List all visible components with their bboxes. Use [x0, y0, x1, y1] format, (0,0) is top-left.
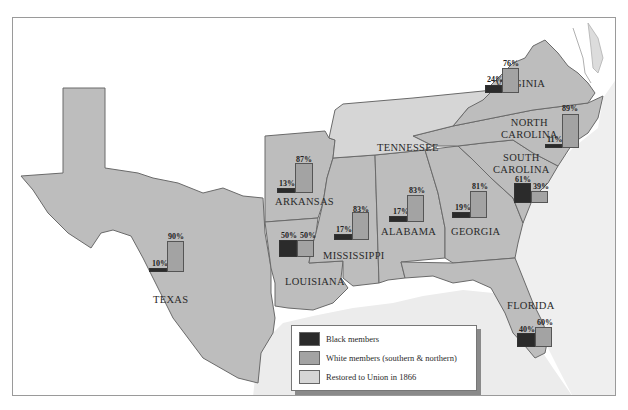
texas-white-bar [167, 241, 184, 272]
label-nc-line1: NORTH [501, 117, 558, 129]
legend-item-white-members: White members (southern & northern) [299, 350, 457, 366]
arkansas-black-pct: 13% [279, 179, 295, 188]
georgia-white-pct: 81% [472, 182, 488, 191]
georgia-black-pct: 19% [455, 203, 471, 212]
label-texas: TEXAS [153, 294, 188, 306]
sc-white-bar [531, 191, 548, 203]
legend-item-restored: Restored to Union in 1866 [299, 369, 416, 385]
nc-white-bar [562, 114, 579, 148]
arkansas-black-bar [277, 188, 295, 193]
alabama-white-bar [407, 195, 424, 222]
virginia-black-bar [485, 85, 502, 93]
restored-swatch [299, 370, 320, 384]
label-south-carolina: SOUTH CAROLINA [493, 152, 550, 176]
legend-item-black-members: Black members [299, 331, 379, 347]
florida-black-bar [517, 333, 535, 347]
georgia-black-bar [452, 212, 470, 218]
white-members-swatch [299, 351, 320, 365]
nc-black-bar [545, 144, 562, 148]
state-texas [21, 88, 275, 383]
black-members-swatch [299, 332, 320, 346]
mississippi-white-bar [352, 212, 369, 240]
label-sc-line1: SOUTH [493, 152, 550, 164]
label-georgia: GEORGIA [451, 226, 500, 238]
alabama-black-bar [389, 216, 407, 222]
map-legend: Black members White members (southern & … [291, 325, 477, 391]
label-tennessee: TENNESSEE [377, 142, 439, 154]
delmarva-peninsula [588, 23, 603, 73]
mississippi-black-pct: 17% [336, 225, 352, 234]
texas-black-pct: 10% [152, 259, 168, 268]
virginia-white-bar [502, 68, 519, 93]
mississippi-black-bar [334, 234, 352, 240]
louisiana-white-pct: 50% [300, 231, 316, 240]
sc-black-bar [514, 183, 531, 203]
label-louisiana: LOUISIANA [285, 276, 345, 288]
nc-white-pct: 89% [562, 104, 578, 113]
georgia-white-bar [470, 191, 487, 218]
florida-white-bar [535, 327, 552, 347]
label-alabama: ALABAMA [381, 226, 436, 238]
label-florida: FLORIDA [507, 300, 555, 312]
louisiana-black-bar [279, 240, 297, 257]
nc-black-pct: 11% [547, 135, 563, 144]
texas-white-pct: 90% [168, 232, 184, 241]
florida-white-pct: 60% [537, 318, 553, 327]
legend-label: Restored to Union in 1866 [326, 372, 416, 382]
alabama-white-pct: 83% [409, 186, 425, 195]
legend-label: White members (southern & northern) [326, 353, 457, 363]
label-arkansas: ARKANSAS [275, 196, 334, 208]
louisiana-white-bar [297, 240, 314, 257]
legend-label: Black members [326, 334, 379, 344]
label-mississippi: MISSISSIPPI [323, 250, 385, 262]
virginia-black-pct: 24% [487, 75, 503, 84]
louisiana-black-pct: 50% [281, 231, 297, 240]
virginia-white-pct: 76% [503, 59, 519, 68]
arkansas-white-bar [295, 163, 313, 193]
texas-black-bar [149, 268, 167, 272]
sc-white-pct: 39% [533, 182, 549, 191]
